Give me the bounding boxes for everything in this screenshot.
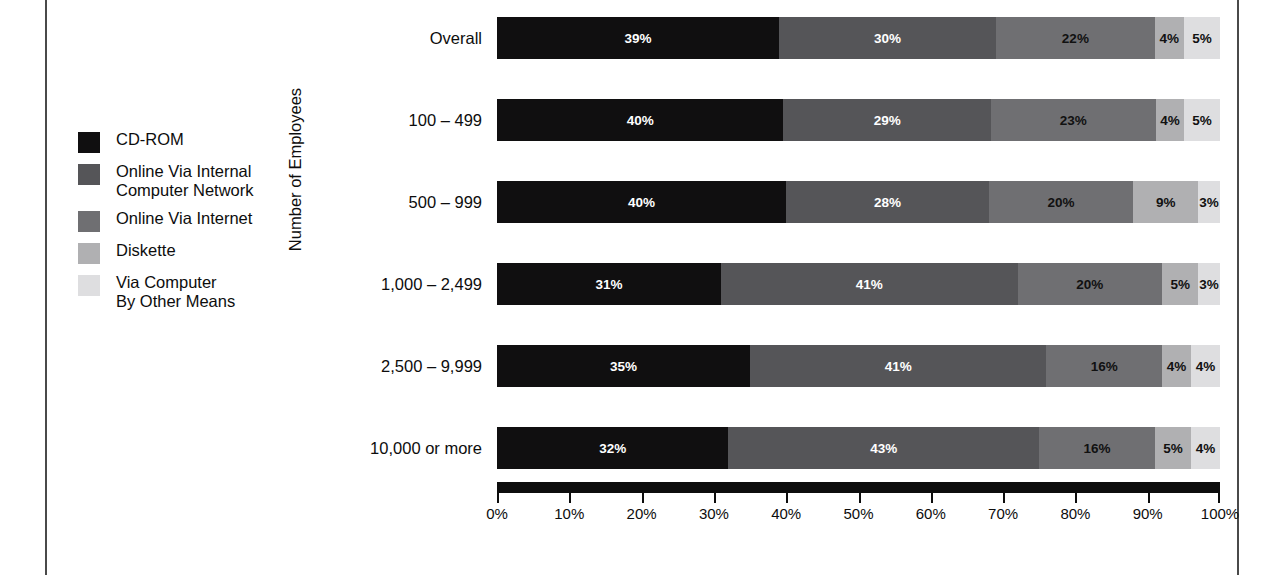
bar-segment: 5% [1162,263,1198,305]
y-axis-category-label: Overall [282,17,482,59]
bar-segment: 35% [497,345,750,387]
bar-segment-value-label: 20% [1047,195,1074,210]
legend-swatch-icon [78,211,100,232]
stacked-bar-row: 39%30%22%4%5% [497,17,1220,59]
x-axis-tick-mark [1218,493,1220,503]
legend-item: Online Via Internet [78,209,308,232]
x-axis-tick-label: 40% [751,505,821,522]
x-axis-line [497,482,1220,493]
bar-segment-value-label: 40% [628,195,655,210]
x-axis-tick-label: 100% [1185,505,1255,522]
bar-segment-value-label: 9% [1156,195,1176,210]
legend-swatch-icon [78,164,100,185]
bar-segment-value-label: 20% [1076,277,1103,292]
bar-segment: 30% [779,17,996,59]
legend-item-label: Via Computer By Other Means [116,273,235,311]
legend-item: Diskette [78,241,308,264]
x-axis-tick-label: 90% [1113,505,1183,522]
x-axis-tick-label: 10% [534,505,604,522]
bar-segment-value-label: 41% [885,359,912,374]
bar-segment: 20% [989,181,1134,223]
bar-segment-value-label: 5% [1170,277,1190,292]
y-axis-category-label: 2,500 – 9,999 [282,345,482,387]
bar-segment-value-label: 31% [596,277,623,292]
x-axis-tick-label: 0% [462,505,532,522]
y-axis-category-label: 500 – 999 [282,181,482,223]
stacked-bar-row: 31%41%20%5%3% [497,263,1220,305]
bar-segment-value-label: 28% [874,195,901,210]
legend-swatch-icon [78,132,100,153]
bar-segment: 9% [1133,181,1198,223]
bar-segment-value-label: 35% [610,359,637,374]
bar-segment-value-label: 29% [874,113,901,128]
bar-segment-value-label: 32% [599,441,626,456]
bar-segment: 32% [497,427,728,469]
page-border-right [1237,0,1239,575]
x-axis-tick-mark [859,493,861,503]
x-axis-tick-marks [497,493,1220,503]
x-axis-tick-label: 50% [824,505,894,522]
legend-item: Via Computer By Other Means [78,273,308,311]
bar-segment: 22% [996,17,1155,59]
x-axis-tick-mark [1075,493,1077,503]
stacked-bar-row: 32%43%16%5%4% [497,427,1220,469]
x-axis-tick-label: 20% [607,505,677,522]
x-axis-tick-label: 80% [1040,505,1110,522]
bar-segment-value-label: 41% [856,277,883,292]
stacked-bar-plot-area: 39%30%22%4%5%40%29%23%4%5%40%28%20%9%3%3… [497,17,1220,487]
y-axis-category-labels: Overall100 – 499500 – 9991,000 – 2,4992,… [282,17,482,487]
bar-segment: 23% [991,99,1156,141]
bar-segment-value-label: 4% [1196,359,1216,374]
bar-segment-value-label: 22% [1062,31,1089,46]
legend-item: Online Via Internal Computer Network [78,162,308,200]
bar-segment: 4% [1191,345,1220,387]
bar-segment: 31% [497,263,721,305]
y-axis-category-label: 100 – 499 [282,99,482,141]
x-axis-tick-mark [1148,493,1150,503]
legend-swatch-icon [78,243,100,264]
bar-segment-value-label: 4% [1196,441,1216,456]
x-axis-tick-label: 60% [896,505,966,522]
bar-segment-value-label: 4% [1167,359,1187,374]
x-axis-tick-mark [642,493,644,503]
stacked-bar-row: 35%41%16%4%4% [497,345,1220,387]
bar-segment-value-label: 3% [1199,195,1219,210]
bar-segment-value-label: 23% [1060,113,1087,128]
bar-segment-value-label: 4% [1160,113,1180,128]
x-axis-tick-mark [1003,493,1005,503]
y-axis-category-label: 1,000 – 2,499 [282,263,482,305]
bar-segment-value-label: 16% [1091,359,1118,374]
bar-segment-value-label: 3% [1199,277,1219,292]
bar-segment: 41% [721,263,1017,305]
bar-segment: 28% [786,181,988,223]
bar-segment: 40% [497,181,786,223]
x-axis-tick-label: 30% [679,505,749,522]
bar-segment: 41% [750,345,1046,387]
bar-segment-value-label: 5% [1192,113,1212,128]
bar-segment: 16% [1046,345,1162,387]
bar-segment: 43% [728,427,1039,469]
bar-segment: 5% [1184,99,1220,141]
x-axis-tick-mark [569,493,571,503]
x-axis-tick-label: 70% [968,505,1038,522]
legend-item-label: CD-ROM [116,130,184,149]
bar-segment: 5% [1184,17,1220,59]
bar-segment: 20% [1018,263,1163,305]
bar-segment-value-label: 5% [1163,441,1183,456]
bar-segment: 16% [1039,427,1155,469]
bar-segment: 5% [1155,427,1191,469]
chart-legend: CD-ROMOnline Via Internal Computer Netwo… [78,130,308,320]
bar-segment: 4% [1156,99,1185,141]
bar-segment-value-label: 39% [624,31,651,46]
bar-segment: 3% [1198,181,1220,223]
stacked-bar-row: 40%28%20%9%3% [497,181,1220,223]
bar-segment: 29% [783,99,991,141]
legend-item-label: Online Via Internal Computer Network [116,162,254,200]
bar-segment: 3% [1198,263,1220,305]
bar-segment: 40% [497,99,783,141]
stacked-bar-row: 40%29%23%4%5% [497,99,1220,141]
x-axis-tick-mark [786,493,788,503]
x-axis-tick-labels: 0%10%20%30%40%50%60%70%80%90%100% [497,505,1220,527]
x-axis-tick-mark [714,493,716,503]
bar-segment: 4% [1191,427,1220,469]
